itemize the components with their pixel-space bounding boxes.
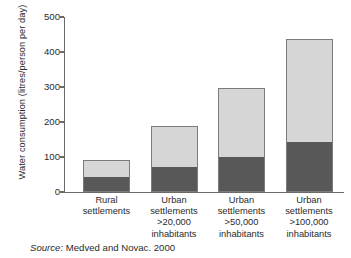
bar-segment-upper <box>151 126 198 167</box>
y-tick-mark <box>60 16 64 17</box>
bar-segment-upper <box>286 39 333 142</box>
y-tick-label: 100 <box>30 152 60 162</box>
y-tick-mark <box>60 191 64 192</box>
bar-2 <box>151 126 198 192</box>
category-label-line: Urban <box>269 195 349 206</box>
y-axis-title: Water consumption (litres/person per day… <box>14 0 30 192</box>
bar-segment-lower <box>151 167 198 192</box>
bar-segment-upper <box>218 88 265 157</box>
bar-3 <box>218 88 265 192</box>
x-axis-line <box>64 192 344 193</box>
y-tick-label: 500 <box>30 12 60 22</box>
y-axis-tick-labels: 0100200300400500 <box>30 17 60 192</box>
category-label-line: settlements <box>269 206 349 217</box>
y-tick-label: 400 <box>30 47 60 57</box>
y-tick-label: 300 <box>30 82 60 92</box>
y-tick-mark <box>60 51 64 52</box>
y-tick-mark <box>60 86 64 87</box>
bar-segment-lower <box>83 177 130 192</box>
source-note: Source: Medved and Novac. 2000 <box>30 242 175 253</box>
y-tick-label: 200 <box>30 117 60 127</box>
source-label: Source: <box>30 242 63 253</box>
category-label-line: inhabitants <box>269 229 349 240</box>
y-axis-line <box>64 17 65 192</box>
source-text: Medved and Novac. 2000 <box>66 242 175 253</box>
x-axis-category-labels: RuralsettlementsUrbansettlements>20,000i… <box>64 195 351 240</box>
bar-segment-lower <box>286 142 333 192</box>
category-label-4: Urbansettlements>100,000inhabitants <box>269 195 349 240</box>
bar-1 <box>83 160 130 192</box>
plot-area <box>64 17 344 192</box>
bar-segment-upper <box>83 160 130 177</box>
category-label-line: >100,000 <box>269 217 349 228</box>
chart-figure: Water consumption (litres/person per day… <box>0 0 351 258</box>
y-tick-label: 0 <box>30 187 60 197</box>
y-tick-mark <box>60 156 64 157</box>
bar-4 <box>286 39 333 192</box>
bar-segment-lower <box>218 157 265 192</box>
y-tick-mark <box>60 121 64 122</box>
